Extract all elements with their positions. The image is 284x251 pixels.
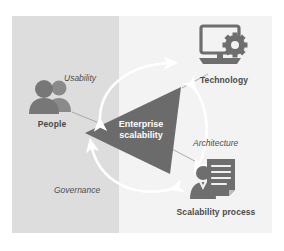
document-person-icon (164, 156, 268, 206)
edge-label-governance: Governance (54, 185, 100, 195)
edge-label-usability: Usability (64, 73, 96, 83)
node-scalability-process-label: Scalability process (164, 207, 268, 217)
node-technology[interactable]: Technology (180, 22, 268, 85)
diagram-canvas: Enterprise scalability People (12, 16, 272, 233)
edge-label-architecture: Architecture (193, 138, 238, 148)
node-people[interactable]: People (16, 78, 88, 129)
node-people-label: People (16, 119, 88, 129)
node-scalability-process[interactable]: Scalability process (164, 156, 268, 217)
diagram-root: Enterprise scalability People (0, 0, 284, 251)
node-technology-label: Technology (180, 75, 268, 85)
monitor-gear-icon (180, 22, 268, 74)
two-people-icon (16, 78, 88, 118)
